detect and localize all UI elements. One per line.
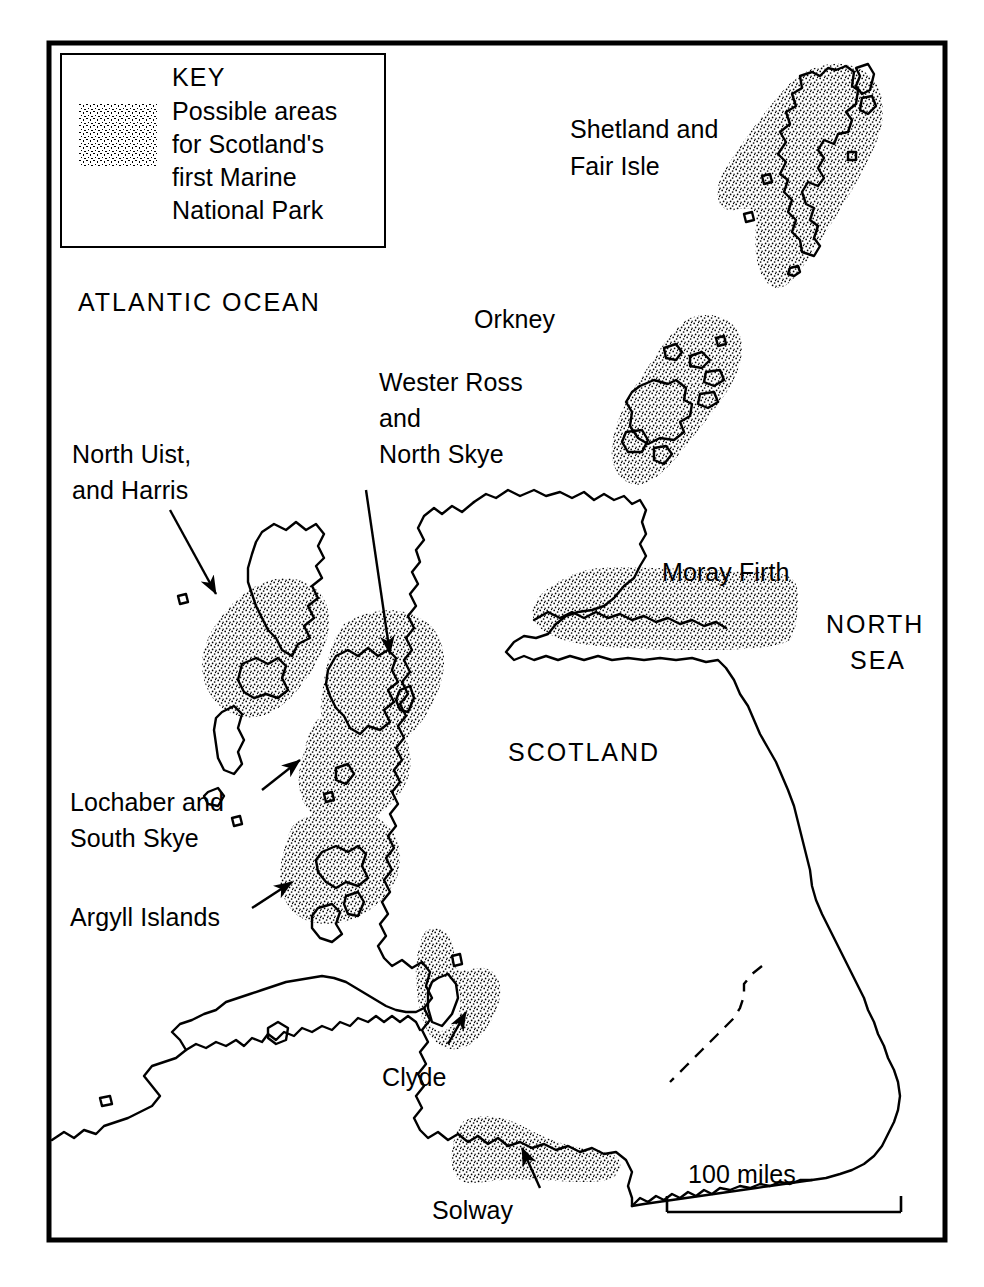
- label-shetland-fair-isle-line-1: Shetland and: [570, 115, 719, 145]
- label-shetland-fair-isle-line-2: Fair Isle: [570, 152, 660, 182]
- label-lochaber-south-skye-line-2: South Skye: [70, 824, 199, 854]
- label-lochaber-south-skye-line-1: Lochaber and: [70, 788, 224, 818]
- coast-hebrides-islet-b: [232, 816, 242, 826]
- label-north-uist-harris-line-1: North Uist,: [72, 440, 191, 470]
- map-figure: KEY Possible areas for Scotland's first …: [0, 0, 984, 1287]
- coast-bute: [452, 954, 462, 966]
- arrow-lochaber-south-skye: [262, 760, 300, 790]
- scale-bar: [667, 1196, 901, 1212]
- scale-bar-label: 100 miles: [688, 1160, 796, 1190]
- key-title: KEY: [172, 63, 226, 93]
- arrow-north-uist-harris: [170, 510, 216, 594]
- label-solway: Solway: [432, 1196, 513, 1226]
- label-wester-ross-line-3: North Skye: [379, 440, 504, 470]
- area-north-uist-harris: [202, 578, 329, 717]
- label-wester-ross-line-2: and: [379, 404, 421, 434]
- label-argyll-islands: Argyll Islands: [70, 903, 220, 933]
- label-scotland: SCOTLAND: [508, 738, 660, 768]
- area-argyll-islands: [280, 809, 400, 924]
- map-key: KEY Possible areas for Scotland's first …: [60, 53, 386, 248]
- border-scotland-england: [670, 966, 762, 1082]
- coast-arran: [428, 974, 458, 1026]
- area-orkney: [612, 315, 742, 485]
- coast-ireland-islet: [100, 1096, 112, 1106]
- key-description-line-1: Possible areas: [172, 97, 337, 127]
- label-clyde: Clyde: [382, 1063, 446, 1093]
- coast-ireland-north: [186, 1016, 420, 1050]
- label-orkney: Orkney: [474, 305, 555, 335]
- key-description-line-3: first Marine: [172, 163, 297, 193]
- label-moray-firth: Moray Firth: [662, 558, 790, 588]
- label-atlantic-ocean: ATLANTIC OCEAN: [78, 288, 321, 318]
- stipple-swatch: [79, 103, 157, 166]
- coast-hebrides-islet-a: [178, 594, 188, 604]
- coast-ireland: [52, 976, 424, 1140]
- label-north-sea-line-1: NORTH: [826, 610, 924, 640]
- label-north-sea-line-2: SEA: [850, 646, 906, 676]
- label-wester-ross-line-1: Wester Ross: [379, 368, 523, 398]
- area-shetland-fair-isle: [717, 64, 883, 288]
- label-north-uist-harris-line-2: and Harris: [72, 476, 188, 506]
- key-description-line-2: for Scotland's: [172, 130, 324, 160]
- coast-shetland-islet-b: [744, 212, 754, 222]
- key-description-line-4: National Park: [172, 196, 323, 226]
